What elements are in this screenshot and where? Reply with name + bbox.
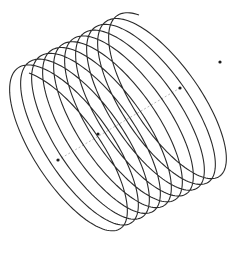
helix-canvas bbox=[0, 0, 243, 256]
helix-curve bbox=[10, 13, 227, 231]
axis-end-point bbox=[178, 86, 181, 89]
axis-start-point bbox=[56, 158, 59, 161]
helix-figure bbox=[0, 0, 243, 256]
axis-mid-point bbox=[96, 132, 99, 135]
key-points bbox=[56, 60, 221, 161]
helix-end-point bbox=[218, 60, 221, 63]
